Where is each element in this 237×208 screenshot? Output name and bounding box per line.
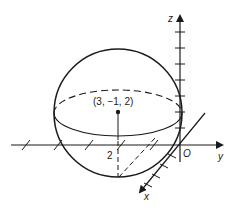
x-axis-label: x	[143, 191, 150, 202]
z-axis-label: z	[167, 13, 173, 24]
sphere-diagram: (3, −1, 2) 2 O y z x	[0, 0, 237, 208]
diagram-canvas: (3, −1, 2) 2 O y z x	[0, 0, 237, 208]
projection-dashed	[119, 138, 155, 177]
origin-label: O	[183, 148, 191, 159]
height-label: 2	[107, 150, 113, 161]
center-label: (3, −1, 2)	[93, 96, 133, 107]
y-axis-label: y	[217, 151, 224, 162]
